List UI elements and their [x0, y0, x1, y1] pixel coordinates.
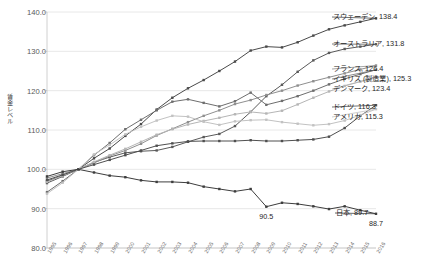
data-point — [328, 135, 330, 137]
data-point — [202, 102, 204, 104]
data-point — [234, 125, 236, 127]
data-point — [202, 140, 204, 142]
data-point — [249, 188, 251, 190]
data-point — [265, 206, 267, 208]
data-point — [249, 99, 251, 101]
data-point — [171, 115, 173, 117]
y-axis-tick: 90.0 — [12, 204, 46, 213]
data-point — [171, 128, 173, 130]
series-line — [47, 105, 376, 180]
data-point — [140, 141, 142, 143]
data-point — [202, 136, 204, 138]
y-axis-tick: 120.0 — [12, 86, 46, 95]
data-point — [124, 128, 126, 130]
data-point — [93, 163, 95, 165]
data-point — [108, 147, 110, 149]
series-line — [47, 18, 376, 181]
data-point — [281, 100, 283, 102]
data-point — [343, 127, 345, 129]
data-point — [281, 140, 283, 142]
data-point — [218, 109, 220, 111]
series-7 — [46, 168, 377, 215]
data-point — [140, 149, 142, 151]
data-point — [328, 208, 330, 210]
series-end-label: スウェーデン, 138.4 — [333, 13, 397, 20]
y-axis-tick: 100.0 — [12, 165, 46, 174]
y-axis-tick: 130.0 — [12, 47, 46, 56]
data-point — [108, 174, 110, 176]
data-point — [265, 119, 267, 121]
data-point — [296, 95, 298, 97]
data-point — [140, 126, 142, 128]
series-0 — [46, 17, 377, 182]
data-point — [108, 154, 110, 156]
plot-area — [47, 12, 376, 248]
point-annotation: 88.7 — [369, 220, 383, 227]
x-axis-tick-labels: 1995199619971998199920002001200220032004… — [47, 250, 376, 275]
y-axis-tick-labels: 80.090.0100.0110.0120.0130.0140.0 — [0, 0, 46, 275]
data-point — [281, 89, 283, 91]
data-point — [171, 146, 173, 148]
series-1 — [46, 43, 377, 184]
y-axis-tick: 80.0 — [12, 244, 46, 253]
data-point — [140, 179, 142, 181]
data-point — [77, 168, 79, 170]
data-point — [234, 190, 236, 192]
data-point — [296, 203, 298, 205]
data-point — [124, 176, 126, 178]
data-point — [46, 175, 48, 177]
data-point — [108, 144, 110, 146]
data-point — [187, 123, 189, 125]
data-point — [249, 91, 251, 93]
data-point — [281, 202, 283, 204]
data-point — [234, 113, 236, 115]
data-point — [249, 49, 251, 51]
x-axis-tick: 2016 — [375, 241, 386, 254]
data-point — [312, 80, 314, 82]
series-line — [47, 169, 376, 213]
data-point — [343, 24, 345, 26]
data-point — [124, 148, 126, 150]
y-axis-tick: 110.0 — [12, 126, 46, 135]
data-point — [312, 205, 314, 207]
data-point — [218, 124, 220, 126]
data-point — [93, 161, 95, 163]
data-point — [218, 70, 220, 72]
data-point — [296, 103, 298, 105]
data-point — [312, 89, 314, 91]
data-point — [296, 123, 298, 125]
data-point — [312, 124, 314, 126]
data-point — [46, 193, 48, 195]
point-annotation: 90.5 — [259, 213, 273, 220]
data-point — [265, 104, 267, 106]
series-end-label: オーストラリア, 131.8 — [333, 40, 404, 47]
data-point — [281, 121, 283, 123]
data-point — [265, 94, 267, 96]
data-point — [218, 140, 220, 142]
data-point — [312, 59, 314, 61]
data-point — [296, 139, 298, 141]
series-6 — [46, 108, 377, 195]
data-point — [296, 71, 298, 73]
data-point — [249, 111, 251, 113]
data-point — [93, 171, 95, 173]
data-point — [155, 145, 157, 147]
plot-svg — [47, 12, 376, 248]
data-point — [218, 117, 220, 119]
data-point — [171, 142, 173, 144]
data-point — [265, 112, 267, 114]
data-point — [187, 121, 189, 123]
data-point — [312, 138, 314, 140]
data-point — [234, 60, 236, 62]
data-point — [171, 100, 173, 102]
data-point — [202, 185, 204, 187]
y-axis-tick: 140.0 — [12, 8, 46, 17]
data-point — [155, 134, 157, 136]
data-point — [218, 188, 220, 190]
series-end-label: アメリカ, 115.3 — [333, 113, 383, 120]
data-point — [281, 110, 283, 112]
data-point — [202, 121, 204, 123]
data-point — [202, 79, 204, 81]
series-end-label: デンマーク, 123.4 — [333, 85, 390, 92]
data-point — [155, 149, 157, 151]
